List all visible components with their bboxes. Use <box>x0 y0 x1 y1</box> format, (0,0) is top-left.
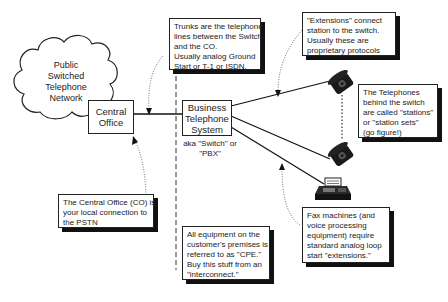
pbx-aka-line: "PBX" <box>180 149 240 159</box>
pstn-label-line: Telephone <box>38 82 94 93</box>
pstn-label: Public Switched Telephone Network <box>38 60 94 104</box>
note-line: station to the switch. <box>307 26 391 36</box>
note-line: behind the switch <box>363 98 433 108</box>
note-line: your local connection to <box>63 208 149 218</box>
pstn-label-line: Network <box>38 93 94 104</box>
extensions-note: "Extensions" connect station to the swit… <box>302 12 396 56</box>
note-line: (go figure!) <box>363 128 433 138</box>
note-line: All equipment on the <box>187 230 265 240</box>
note-line: Trunks are the telephone <box>174 22 256 32</box>
pbx-label: Telephone <box>185 113 229 124</box>
note-line: equipment) require <box>307 231 385 241</box>
pbx-label: Business <box>188 102 227 113</box>
note-line: customer's premises is <box>187 240 265 250</box>
pbx-aka-label: aka "Switch" or "PBX" <box>180 139 240 159</box>
pstn-label-line: Switched <box>38 71 94 82</box>
telephone-icon <box>326 140 356 168</box>
pstn-label-line: Public <box>38 60 94 71</box>
note-line: The Telephones <box>363 88 433 98</box>
fax-note: Fax machines (and voice processing equip… <box>302 207 390 263</box>
note-line: The Central Office (CO) is <box>63 198 149 208</box>
note-line: Usually these are <box>307 36 391 46</box>
pbx-label: System <box>191 124 223 135</box>
fax-machine-icon <box>313 176 353 202</box>
note-line: Start or T-1 or ISDN. <box>174 62 256 72</box>
telephone-icon <box>326 68 356 96</box>
note-line: the PSTN <box>63 218 149 228</box>
note-line: start "extensions." <box>307 251 385 261</box>
central-office-box: Central Office <box>88 100 134 134</box>
note-line: lines between the Switch <box>174 32 256 42</box>
note-line: referred to as "CPE." <box>187 250 265 260</box>
note-line: "Extensions" connect <box>307 16 391 26</box>
central-office-label: Central <box>96 106 127 117</box>
note-line: "interconnect." <box>187 270 265 280</box>
cpe-note: All equipment on the customer's premises… <box>182 226 270 280</box>
note-line: Usually analog Ground <box>174 52 256 62</box>
trunks-note: Trunks are the telephone lines between t… <box>169 18 261 70</box>
note-line: are called "stations" <box>363 108 433 118</box>
note-line: or "station sets" <box>363 118 433 128</box>
note-line: proprietary protocols <box>307 46 391 56</box>
central-office-label: Office <box>99 117 124 128</box>
central-office-note: The Central Office (CO) is your local co… <box>58 194 154 228</box>
note-line: Buy this stuff from an <box>187 260 265 270</box>
note-line: and the CO. <box>174 42 256 52</box>
note-line: Fax machines (and <box>307 211 385 221</box>
pbx-aka-line: aka "Switch" or <box>180 139 240 149</box>
stations-note: The Telephones behind the switch are cal… <box>358 84 438 138</box>
note-line: standard analog loop <box>307 241 385 251</box>
note-line: voice processing <box>307 221 385 231</box>
pbx-box: Business Telephone System <box>182 100 232 136</box>
